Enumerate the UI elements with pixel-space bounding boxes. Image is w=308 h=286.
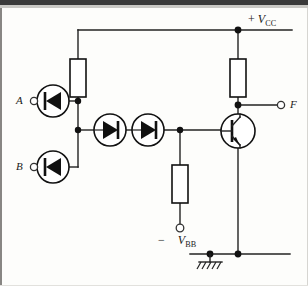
node-a-diode [75, 98, 81, 104]
resistor-r3-base-bias [172, 165, 188, 203]
node-diode-chain [75, 127, 81, 133]
transistor-npn-output [221, 114, 255, 148]
terminal-vbb-ring [176, 224, 184, 232]
terminal-b-ring [30, 163, 37, 170]
node-ground-right [235, 251, 242, 258]
label-input-b: B [16, 161, 23, 172]
label-supply-vbb: −VBB [158, 234, 196, 250]
ground-symbol [197, 254, 222, 269]
label-vbb-sign: − [158, 233, 165, 247]
figure-sheet: .w{stroke:#222;stroke-width:1.4;fill:non… [0, 0, 308, 286]
terminal-a-ring [30, 97, 37, 104]
diode-level-shift-1 [94, 114, 126, 146]
resistor-r1-pullup [70, 59, 86, 97]
diode-level-shift-2 [132, 114, 164, 146]
resistor-r2-collector [230, 59, 246, 97]
label-vcc-subscript: CC [265, 19, 276, 28]
terminal-f-ring [277, 101, 284, 108]
diode-input-a [37, 85, 69, 117]
label-output-f: F [290, 99, 297, 110]
node-vcc [235, 27, 242, 34]
node-base [177, 127, 183, 133]
node-collector [235, 102, 242, 109]
diode-input-b [37, 151, 69, 183]
label-supply-vcc: +VCC [248, 13, 276, 29]
label-vcc-sign: + [248, 12, 255, 26]
label-input-a: A [16, 95, 23, 106]
circuit-schematic: .w{stroke:#222;stroke-width:1.4;fill:non… [0, 0, 308, 286]
label-vbb-subscript: BB [185, 240, 196, 249]
